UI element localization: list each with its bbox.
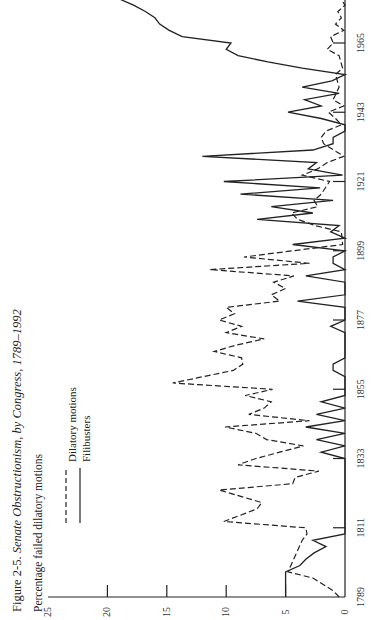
filibusters-line <box>119 0 345 597</box>
chart-plot: 0510152025 17891811183318551877189919211… <box>0 0 382 620</box>
axes <box>48 0 345 597</box>
year-tick-label: 1921 <box>355 172 366 192</box>
value-tick-label: 15 <box>161 607 172 617</box>
value-tick-label: 20 <box>101 607 112 617</box>
year-tick-label: 1943 <box>355 102 366 122</box>
value-tick-labels: 0510152025 <box>42 607 350 617</box>
year-tick-label: 1789 <box>355 587 366 607</box>
value-ticks <box>107 585 285 597</box>
year-tick-label: 1899 <box>355 241 366 261</box>
value-tick-label: 5 <box>280 610 291 615</box>
year-tick-label: 1811 <box>355 518 366 538</box>
year-tick-label: 1965 <box>355 33 366 53</box>
year-tick-label: 1855 <box>355 379 366 399</box>
year-ticks <box>333 43 345 528</box>
value-tick-label: 25 <box>42 607 53 617</box>
value-tick-label: 10 <box>220 607 231 617</box>
year-tick-label: 1833 <box>355 449 366 469</box>
legend <box>66 468 80 523</box>
year-tick-labels: 178918111833185518771899192119431965 <box>355 33 366 607</box>
year-tick-label: 1877 <box>355 310 366 330</box>
value-tick-label: 0 <box>339 610 350 615</box>
